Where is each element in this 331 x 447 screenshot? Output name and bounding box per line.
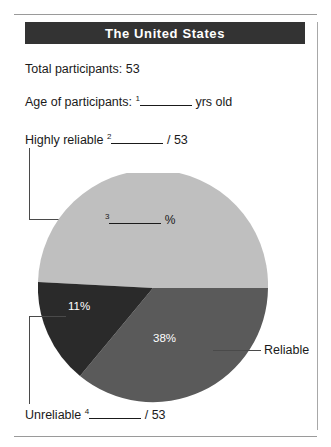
age-answer-marker: 1	[136, 94, 140, 103]
unreliable-answer-marker: 4	[85, 407, 89, 416]
age-unit-label: yrs old	[195, 95, 232, 109]
pie-slice-reliable-value: 38%	[153, 332, 176, 344]
total-participants-row: Total participants: 53	[25, 62, 140, 76]
age-participants-label: Age of participants:	[25, 95, 132, 109]
reliable-callout-line	[213, 350, 261, 351]
highly-reliable-row: Highly reliable 2 / 53	[25, 132, 188, 147]
pie-slice-unreliable-value: 11%	[68, 300, 90, 312]
highly-reliable-answer-blank[interactable]	[111, 143, 163, 144]
pie-chart	[38, 173, 268, 403]
unreliable-denominator: / 53	[145, 408, 166, 422]
page-title: The United States	[25, 22, 305, 44]
page-title-text: The United States	[105, 26, 225, 41]
pie-percent-answer-marker: 3	[105, 212, 109, 221]
age-participants-row: Age of participants: 1 yrs old	[25, 94, 232, 109]
highly-reliable-percent-row: 3 %	[105, 212, 175, 227]
unreliable-label: Unreliable	[25, 408, 81, 422]
highly-reliable-answer-marker: 2	[107, 132, 111, 141]
unreliable-row: Unreliable 4 / 53	[25, 407, 166, 422]
page-rule-top	[14, 14, 317, 15]
pie-slice-highly-reliable[interactable]	[38, 173, 268, 288]
highly-reliable-callout-line-vertical	[29, 148, 30, 220]
pie-percent-unit: %	[165, 213, 176, 227]
page-rule-bottom	[14, 436, 317, 437]
total-participants-label: Total participants:	[25, 62, 122, 76]
unreliable-answer-blank[interactable]	[89, 418, 141, 419]
highly-reliable-denominator: / 53	[167, 133, 188, 147]
reliable-callout-label: Reliable	[264, 343, 309, 357]
pie-percent-answer-blank[interactable]	[109, 223, 161, 224]
age-answer-blank[interactable]	[140, 105, 192, 106]
worksheet-page: The United States Total participants: 53…	[0, 0, 331, 447]
unreliable-callout-line-vertical	[29, 316, 30, 404]
unreliable-callout-line-horizontal	[29, 316, 66, 317]
total-participants-value: 53	[126, 62, 140, 76]
highly-reliable-label: Highly reliable	[25, 133, 104, 147]
page-rule-right	[317, 22, 318, 430]
pie-chart-svg	[38, 173, 268, 403]
